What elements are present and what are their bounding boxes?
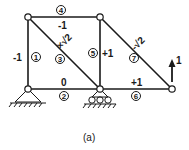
svg-text:1: 1 (34, 53, 39, 62)
force-member-2: 0 (61, 77, 67, 88)
svg-text:6: 6 (134, 92, 139, 101)
member-id-4: 4 (57, 6, 66, 16)
node-bottom-middle (97, 86, 103, 92)
member-id-6: 6 (132, 92, 141, 102)
svg-text:7: 7 (132, 54, 137, 63)
figure-caption: (a) (83, 132, 95, 143)
member-id-1: 1 (32, 53, 41, 63)
force-member-7: -√2 (129, 34, 147, 52)
force-member-3: ×√2 (54, 31, 74, 51)
node-bottom-left (25, 86, 31, 92)
member-id-7: 7 (130, 54, 139, 64)
node-top-left (25, 14, 31, 20)
force-member-4: -1 (58, 20, 67, 31)
member-id-2: 2 (60, 92, 69, 102)
truss-diagram: 1 4 1 3 5 7 2 6 -1 -1 ×√2 +1 -√2 0 +1 (a… (0, 0, 189, 150)
svg-text:5: 5 (91, 49, 96, 58)
force-member-1: -1 (13, 52, 22, 63)
load-label: 1 (176, 55, 182, 66)
svg-text:2: 2 (62, 92, 67, 101)
force-member-6: +1 (131, 77, 143, 88)
member-id-5: 5 (89, 49, 98, 59)
svg-text:3: 3 (58, 55, 63, 64)
force-member-5: +1 (102, 48, 114, 59)
load-arrow-icon (169, 59, 176, 82)
node-top-middle (97, 14, 103, 20)
svg-text:4: 4 (59, 6, 64, 15)
member-id-3: 3 (56, 55, 65, 65)
node-bottom-right (169, 86, 175, 92)
